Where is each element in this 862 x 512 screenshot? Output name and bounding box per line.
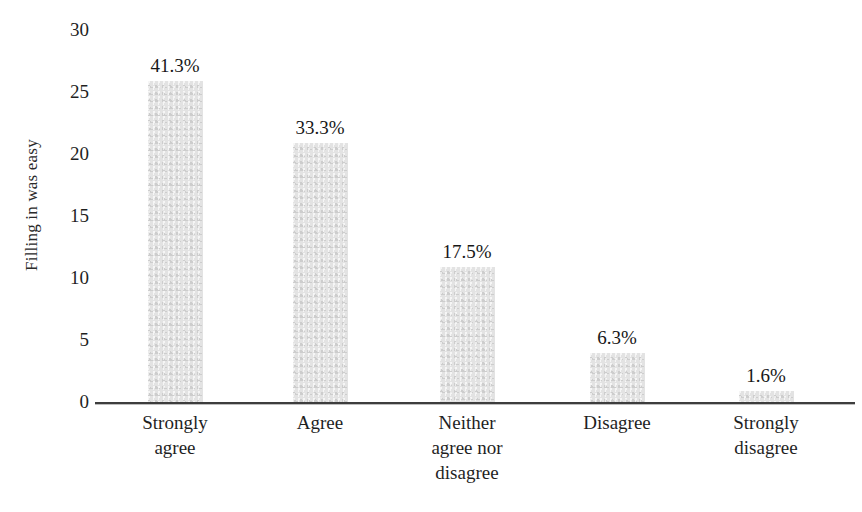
x-axis-label-line: Neither	[392, 410, 542, 435]
x-axis-label: Stronglydisagree	[691, 410, 841, 460]
bar-group: 33.3%	[293, 113, 348, 403]
x-axis-label: Stronglyagree	[100, 410, 250, 460]
plot-area: 41.3%33.3%17.5%6.3%1.6%	[0, 0, 862, 403]
bar[interactable]	[440, 267, 495, 403]
bar-group: 6.3%	[590, 323, 645, 403]
bar[interactable]	[293, 143, 348, 403]
x-axis-label: Agree	[245, 410, 395, 435]
bar-value-label: 6.3%	[597, 328, 637, 347]
x-axis-line-shadow	[95, 404, 855, 405]
x-axis-label-line: Disagree	[542, 410, 692, 435]
bar-value-label: 1.6%	[746, 366, 786, 385]
bar[interactable]	[590, 353, 645, 403]
x-axis-label-line: Strongly	[100, 410, 250, 435]
x-axis-label: Disagree	[542, 410, 692, 435]
x-axis-label-line: agree	[100, 435, 250, 460]
x-axis-label-line: disagree	[392, 460, 542, 485]
bar-group: 1.6%	[739, 361, 794, 403]
x-axis-label-line: disagree	[691, 435, 841, 460]
bar-value-label: 41.3%	[150, 56, 199, 75]
bar[interactable]	[148, 81, 203, 403]
bar-group: 41.3%	[148, 51, 203, 403]
bar-value-label: 17.5%	[442, 242, 491, 261]
bar-chart: Filling in was easy 051015202530 41.3%33…	[0, 0, 862, 512]
x-axis-label-line: agree nor	[392, 435, 542, 460]
x-axis-label: Neitheragree nordisagree	[392, 410, 542, 485]
x-axis-label-line: Agree	[245, 410, 395, 435]
x-axis-label-line: Strongly	[691, 410, 841, 435]
bar-group: 17.5%	[440, 237, 495, 403]
bar-value-label: 33.3%	[295, 118, 344, 137]
